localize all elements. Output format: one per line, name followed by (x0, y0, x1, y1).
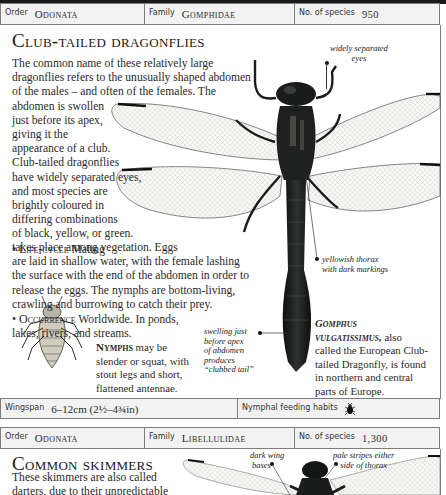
leader-line (0, 0, 446, 495)
field-guide-page: Order Odonata Family Gomphidae No. of sp… (0, 0, 446, 495)
